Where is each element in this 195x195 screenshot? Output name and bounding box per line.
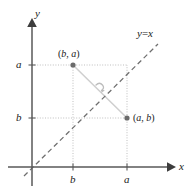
point-label-b-a: (b, a) bbox=[58, 49, 80, 59]
point-marker-a-b bbox=[124, 115, 129, 120]
x-axis-arrow-icon bbox=[167, 162, 176, 172]
coordinate-plane-figure: y x a b b a y=x (b, a) (a, b) bbox=[0, 0, 195, 195]
figure-canvas bbox=[0, 0, 195, 195]
x-axis bbox=[8, 162, 176, 172]
identity-line-y-equals-x bbox=[24, 44, 158, 176]
x-tick-label-a: a bbox=[124, 174, 130, 185]
y-axis-label: y bbox=[35, 8, 40, 19]
identity-line-label-x: x bbox=[148, 27, 153, 39]
x-axis-label: x bbox=[179, 161, 184, 172]
point-label-a-b-close-paren: ) bbox=[151, 112, 154, 123]
point-label-a-b: (a, b) bbox=[133, 113, 155, 123]
guide-lines bbox=[32, 65, 127, 167]
y-axis bbox=[27, 18, 37, 186]
identity-line-label: y=x bbox=[137, 28, 153, 39]
reflection-connector bbox=[75, 67, 125, 116]
point-label-b-a-close-paren: ) bbox=[76, 48, 79, 59]
x-tick-label-b: b bbox=[70, 174, 76, 185]
point-marker-b-a bbox=[70, 62, 75, 67]
y-axis-arrow-icon bbox=[27, 18, 37, 27]
reflection-connector-line bbox=[75, 67, 125, 116]
y-tick-label-b: b bbox=[16, 112, 22, 123]
y-tick-label-a: a bbox=[16, 59, 22, 70]
